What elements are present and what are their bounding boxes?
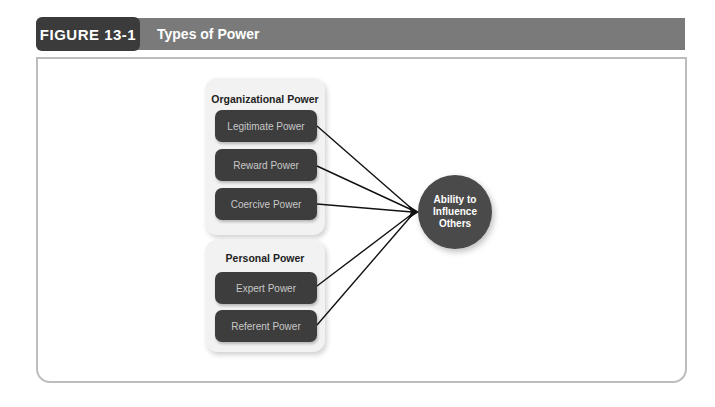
- personal-power-panel: Personal Power Expert Power Referent Pow…: [205, 240, 325, 352]
- coercive-power-box: Coercive Power: [215, 188, 317, 220]
- ability-to-influence-circle: Ability to Influence Others: [418, 175, 492, 249]
- figure-label: FIGURE 13-1: [36, 17, 140, 51]
- expert-power-box: Expert Power: [215, 272, 317, 304]
- organizational-power-panel: Organizational Power Legitimate Power Re…: [205, 78, 325, 235]
- reward-power-box: Reward Power: [215, 149, 317, 181]
- legitimate-power-box: Legitimate Power: [215, 110, 317, 142]
- personal-power-title: Personal Power: [205, 252, 325, 264]
- figure-title: Types of Power: [157, 18, 259, 50]
- referent-power-box: Referent Power: [215, 310, 317, 342]
- circle-line-2: Influence: [433, 206, 477, 218]
- circle-line-1: Ability to: [433, 194, 477, 206]
- figure-frame: [36, 57, 687, 383]
- organizational-power-title: Organizational Power: [205, 93, 325, 105]
- circle-line-3: Others: [433, 218, 477, 230]
